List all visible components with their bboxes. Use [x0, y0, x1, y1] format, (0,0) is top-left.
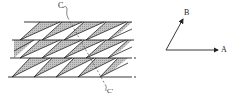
basis-vectors — [166, 19, 218, 50]
lattice-row-1 — [20, 22, 132, 40]
lattice-row-3 — [12, 58, 128, 77]
label-c-bottom: C' — [107, 88, 113, 95]
vector-b-arrow — [166, 19, 183, 50]
label-vector-b: B — [184, 9, 189, 17]
lattice-row-2 — [14, 40, 132, 58]
label-c-top: C — [58, 2, 63, 10]
label-vector-a: A — [221, 46, 227, 54]
lattice-diagram — [0, 0, 233, 98]
